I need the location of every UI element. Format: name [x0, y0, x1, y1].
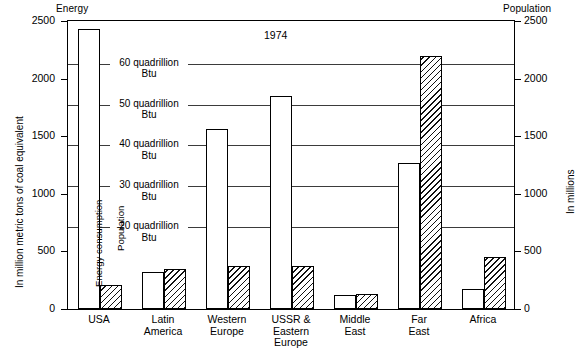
- callout-30-btu: 30 quadrillionBtu: [110, 179, 188, 202]
- bar-population-0: [100, 285, 122, 309]
- inbar-label-energy-consumption: Energy consumption: [93, 200, 104, 287]
- right-tick-label-500: 500: [524, 244, 568, 256]
- bar-population-5: [420, 56, 442, 309]
- inbar-label-population: Population: [115, 206, 126, 251]
- right-tick-1000: [514, 194, 521, 195]
- left-tick-label-0: 0: [11, 302, 55, 314]
- bar-population-1: [164, 269, 186, 309]
- bar-energy-3: [270, 96, 292, 309]
- bar-energy-5: [398, 163, 420, 309]
- right-tick-label-2000: 2000: [524, 72, 568, 84]
- left-tick-label-1000: 1000: [11, 187, 55, 199]
- right-tick-label-0: 0: [524, 302, 568, 314]
- left-axis-caption: Energy: [56, 3, 88, 14]
- right-tick-500: [514, 251, 521, 252]
- right-tick-0: [514, 309, 521, 310]
- right-tick-label-1000: 1000: [524, 187, 568, 199]
- right-tick-1500: [514, 136, 521, 137]
- bar-energy-2: [206, 129, 228, 309]
- left-tick-label-1500: 1500: [11, 129, 55, 141]
- category-label-6: Africa: [438, 314, 528, 326]
- left-tick-label-2000: 2000: [11, 72, 55, 84]
- right-tick-2000: [514, 79, 521, 80]
- right-tick-label-2500: 2500: [524, 14, 568, 26]
- callout-60-btu: 60 quadrillionBtu: [110, 57, 188, 80]
- bar-population-2: [228, 266, 250, 309]
- right-tick-2500: [514, 21, 521, 22]
- bar-energy-6: [462, 289, 484, 309]
- chart-title: 1974: [264, 29, 287, 41]
- bar-population-6: [484, 257, 506, 309]
- callout-50-btu: 50 quadrillionBtu: [110, 98, 188, 121]
- left-tick-label-2500: 2500: [11, 14, 55, 26]
- left-tick-label-500: 500: [11, 244, 55, 256]
- bar-energy-1: [142, 272, 164, 309]
- right-tick-label-1500: 1500: [524, 129, 568, 141]
- left-axis-title: In million metric tons of coal equivalen…: [14, 116, 25, 288]
- bar-population-3: [292, 266, 314, 309]
- bar-energy-4: [334, 295, 356, 309]
- callout-40-btu: 40 quadrillionBtu: [110, 138, 188, 161]
- right-axis-caption: Population: [503, 3, 551, 14]
- bar-population-4: [356, 294, 378, 309]
